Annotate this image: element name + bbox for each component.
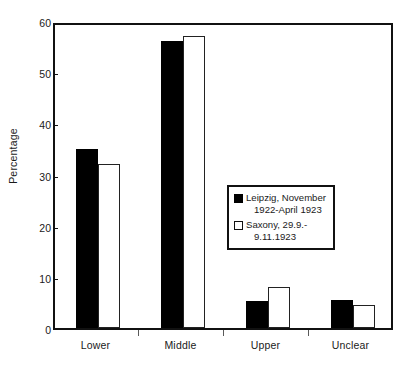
bar-upper-series-1 [268,287,290,328]
bar-lower-series-0 [76,149,98,328]
y-tick-mark [53,125,58,126]
bar-lower-series-1 [98,164,120,328]
chart-page: Percentage 0102030405060 LowerMiddleUppe… [0,0,413,368]
y-axis-title: Percentage [7,121,19,191]
y-tick-mark [53,177,58,178]
x-tick-mark [138,330,139,336]
bar-middle-series-1 [183,36,205,328]
legend-label-1: Saxony, 29.9.-9.11.1923 [246,219,307,243]
bar-unclear-series-0 [331,300,353,328]
y-tick-mark [53,279,58,280]
y-tick-label: 20 [29,223,51,233]
x-category-label-unclear: Unclear [308,339,393,351]
y-tick-mark [53,228,58,229]
legend-entry-0: Leipzig, November1922-April 1923 [234,192,328,216]
legend-label-0-line2: 1922-April 1923 [246,204,326,216]
x-category-label-upper: Upper [223,339,308,351]
x-tick-mark [308,330,309,336]
bar-middle-series-0 [161,41,183,328]
legend-label-0: Leipzig, November1922-April 1923 [246,192,326,216]
filled-black-square-icon [234,194,243,203]
x-category-label-middle: Middle [138,339,223,351]
chart-legend: Leipzig, November1922-April 1923Saxony, … [227,185,335,250]
y-tick-label: 40 [29,120,51,130]
y-tick-label: 0 [29,325,51,335]
y-tick-label: 10 [29,274,51,284]
y-tick-label: 50 [29,69,51,79]
y-tick-label: 30 [29,172,51,182]
bar-upper-series-0 [246,301,268,328]
x-category-label-lower: Lower [53,339,138,351]
open-white-square-icon [234,221,243,230]
y-tick-label: 60 [29,18,51,28]
legend-label-1-line2: 9.11.1923 [246,231,307,243]
legend-entry-1: Saxony, 29.9.-9.11.1923 [234,219,328,243]
y-axis-ticks: 0102030405060 [24,0,51,368]
plot-area [53,23,393,330]
x-tick-mark [223,330,224,336]
bar-unclear-series-1 [353,305,375,328]
y-tick-mark [53,74,58,75]
